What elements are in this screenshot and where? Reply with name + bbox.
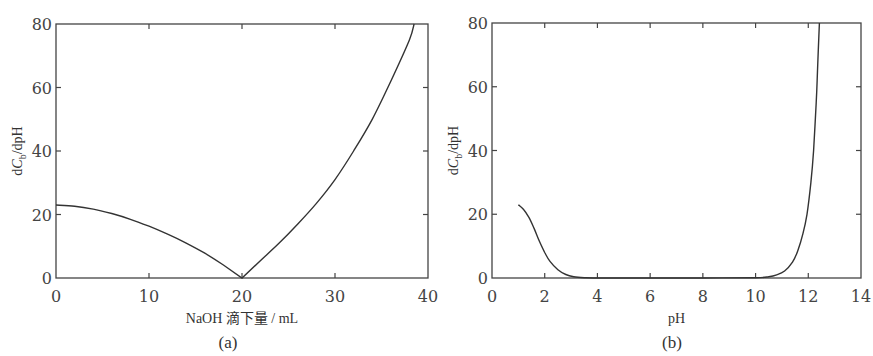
- y-tick-label: 60: [32, 79, 52, 98]
- y-axis-label: dCb/dpH: [446, 126, 464, 175]
- subfigure-caption: (b): [662, 333, 682, 352]
- x-tick-label: 10: [745, 287, 765, 306]
- x-tick-label: 0: [51, 287, 61, 306]
- x-axis-label: NaOH 滴下量 / mL: [186, 310, 298, 326]
- y-tick-label: 20: [468, 205, 488, 224]
- x-tick-label: 12: [798, 287, 818, 306]
- y-axis-label: dCb/dpH: [10, 126, 28, 175]
- x-tick-label: 30: [325, 287, 345, 306]
- x-tick-label: 0: [487, 287, 497, 306]
- y-tick-label: 0: [42, 269, 52, 288]
- y-tick-label: 20: [32, 206, 52, 225]
- plot-frame: [492, 23, 861, 278]
- x-tick-label: 6: [645, 287, 655, 306]
- x-tick-label: 4: [592, 287, 602, 306]
- y-tick-label: 80: [32, 15, 52, 34]
- x-axis-label: pH: [668, 311, 685, 326]
- x-tick-label: 14: [851, 287, 871, 306]
- subfigure-caption: (a): [219, 333, 238, 352]
- y-tick-label: 80: [468, 14, 488, 33]
- y-tick-label: 40: [32, 142, 52, 161]
- x-tick-label: 40: [418, 287, 438, 306]
- plot-frame: [56, 24, 428, 278]
- x-tick-label: 10: [139, 287, 159, 306]
- data-curve: [518, 23, 819, 278]
- x-tick-label: 20: [232, 287, 252, 306]
- y-tick-label: 40: [468, 142, 488, 161]
- chart-a-volume: 010203040020406080NaOH 滴下量 / mLdCb/dpH(a…: [10, 15, 438, 352]
- titration-derivative-figure: 010203040020406080NaOH 滴下量 / mLdCb/dpH(a…: [0, 0, 873, 356]
- x-tick-label: 8: [698, 287, 708, 306]
- chart-b-ph: 02468101214020406080pHdCb/dpH(b): [446, 14, 871, 352]
- y-tick-label: 60: [468, 78, 488, 97]
- y-tick-label: 0: [478, 269, 488, 288]
- data-curve: [56, 24, 414, 278]
- x-tick-label: 2: [540, 287, 550, 306]
